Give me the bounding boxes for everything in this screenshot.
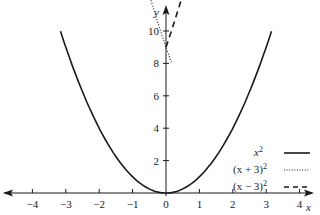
legend-label-sup: 2 bbox=[263, 162, 267, 171]
y-axis-label: y bbox=[153, 6, 159, 18]
x-tick-label: 0 bbox=[163, 198, 169, 210]
x-tick-label: −3 bbox=[60, 198, 72, 210]
x-tick-label: 3 bbox=[263, 198, 269, 210]
legend-label-sup: 2 bbox=[263, 179, 267, 188]
x-tick-label: −2 bbox=[93, 198, 105, 210]
x-tick-label: −4 bbox=[27, 198, 39, 210]
y-tick-label: 8 bbox=[154, 57, 160, 69]
legend-label-sup: 2 bbox=[259, 145, 263, 154]
x-axis-label: x bbox=[305, 201, 311, 213]
x-tick-label: 2 bbox=[230, 198, 236, 210]
legend-item-x-minus-3-squared: (x − 3)2 bbox=[233, 179, 310, 193]
y-axis: 246810 y bbox=[148, 5, 170, 196]
y-tick-label: 6 bbox=[154, 90, 160, 102]
x-tick-label: 4 bbox=[297, 198, 303, 210]
svg-text:(x + 3)2: (x + 3)2 bbox=[233, 162, 267, 176]
svg-text:x2: x2 bbox=[253, 145, 263, 158]
legend: x2 (x + 3)2 (x − 3)2 bbox=[233, 145, 310, 193]
y-tick-label: 2 bbox=[154, 155, 160, 167]
legend-label-main: (x + 3) bbox=[233, 163, 263, 176]
x-tick-label: −1 bbox=[127, 198, 139, 210]
curve-x-minus-3-squared bbox=[166, 0, 300, 47]
legend-item-x-plus-3-squared: (x + 3)2 bbox=[233, 162, 310, 176]
legend-label-main: (x − 3) bbox=[233, 180, 263, 193]
x-tick-label: 1 bbox=[197, 198, 203, 210]
y-tick-label: 10 bbox=[148, 25, 160, 37]
svg-text:(x − 3)2: (x − 3)2 bbox=[233, 179, 267, 193]
legend-item-x-squared: x2 bbox=[253, 145, 310, 158]
chart: −4−3−2−101234 x 246810 y x2 (x + 3)2 (x … bbox=[0, 0, 320, 215]
y-tick-label: 4 bbox=[154, 122, 160, 134]
